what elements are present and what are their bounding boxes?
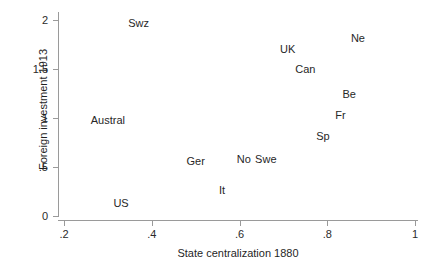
y-tick-label: 0 — [14, 211, 48, 222]
y-axis-line — [58, 12, 59, 217]
data-point-label: Swe — [255, 154, 276, 165]
data-point-label: Ne — [351, 32, 365, 43]
x-tick-label: .2 — [44, 229, 84, 240]
x-tick-mark — [240, 221, 241, 226]
y-tick-mark — [53, 20, 58, 21]
data-point-label: Ger — [186, 156, 204, 167]
x-tick-label: .6 — [220, 229, 260, 240]
data-point-label: Can — [295, 64, 315, 75]
x-axis-title: State centralization 1880 — [58, 248, 418, 259]
data-point-label: No — [237, 154, 251, 165]
y-tick-mark — [53, 69, 58, 70]
x-tick-mark — [327, 221, 328, 226]
y-tick-mark — [53, 167, 58, 168]
x-tick-mark — [64, 221, 65, 226]
y-axis-title: Foreign investment 1913 — [38, 10, 49, 210]
x-axis-line — [58, 220, 418, 221]
x-tick-label: .8 — [307, 229, 347, 240]
y-tick-mark — [53, 216, 58, 217]
x-tick-label: 1 — [395, 229, 435, 240]
data-point-label: UK — [280, 44, 295, 55]
data-point-label: Austral — [91, 114, 125, 125]
x-tick-label: .4 — [132, 229, 172, 240]
data-point-label: Swz — [128, 17, 149, 28]
data-point-label: US — [113, 198, 128, 209]
x-tick-mark — [152, 221, 153, 226]
y-tick-mark — [53, 118, 58, 119]
data-point-label: It — [219, 184, 225, 195]
data-point-label: Fr — [335, 110, 345, 121]
x-tick-mark — [415, 221, 416, 226]
data-point-label: Be — [342, 89, 355, 100]
scatter-plot-figure: 0.511.52 .2.4.6.81 SwzNeUKCanBeFrAustral… — [0, 0, 435, 273]
data-point-label: Sp — [316, 130, 329, 141]
